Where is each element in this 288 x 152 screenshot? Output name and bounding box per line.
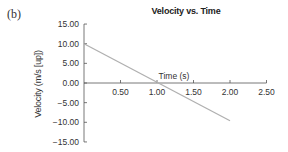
x-tick-label: 1.50: [185, 87, 202, 97]
y-tick-label: 10.00: [58, 39, 80, 49]
x-tick-label: 0.50: [112, 87, 129, 97]
x-tick-label: 2.00: [222, 87, 239, 97]
series-group: [84, 44, 230, 121]
chart-plot: 15.0010.005.000.00−5.00−10.00−15.000.501…: [0, 0, 288, 152]
y-tick-label: 0.00: [62, 78, 79, 88]
velocity-line: [84, 44, 230, 121]
x-axis-label: Time (s): [159, 71, 190, 81]
y-tick-label: −10.00: [53, 117, 80, 127]
y-tick-label: 5.00: [62, 58, 79, 68]
y-tick-label: −5.00: [57, 98, 79, 108]
axes: 15.0010.005.000.00−5.00−10.00−15.000.501…: [53, 19, 275, 147]
x-tick-label: 1.00: [149, 87, 166, 97]
x-tick-label: 2.50: [258, 87, 275, 97]
y-tick-label: 15.00: [58, 19, 80, 29]
y-tick-label: −15.00: [53, 137, 80, 147]
